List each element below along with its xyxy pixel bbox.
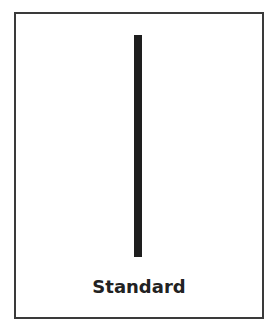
standard-card: Standard [14, 12, 264, 319]
card-label: Standard [16, 276, 262, 297]
vertical-line-sample [134, 35, 142, 257]
